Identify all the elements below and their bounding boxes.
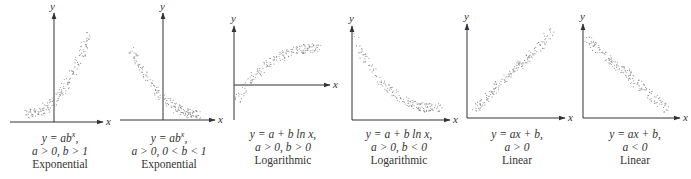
x-axis-label: x — [217, 113, 223, 125]
equation: y = ax + b, — [459, 128, 575, 141]
model-name: Logarithmic — [225, 154, 341, 167]
data-points — [353, 33, 442, 112]
x-axis-label: x — [452, 113, 458, 125]
caption-3: y = a + b ln x, a > 0, b > 0 Logarithmic — [225, 128, 341, 167]
y-axis-label: y — [579, 10, 585, 22]
x-axis-label: x — [567, 111, 573, 123]
y-axis-label: y — [348, 12, 354, 24]
panel-exponential-growth: x y — [10, 0, 111, 127]
caption-2: y = abx, a > 0, 0 < b < 1 Exponential — [111, 128, 227, 171]
equation: y = abx, — [111, 128, 227, 145]
caption-5: y = ax + b, a > 0 Linear — [459, 128, 575, 167]
data-points — [234, 43, 321, 102]
caption-1: y = abx, a > 0, b > 1 Exponential — [2, 128, 118, 171]
panel-linear-increasing: x y — [463, 10, 573, 123]
conditions: a > 0, b > 1 — [2, 145, 118, 158]
caption-4: y = a + b ln x, a > 0, b < 0 Logarithmic — [341, 128, 457, 167]
panel-linear-decreasing: x y — [579, 10, 688, 123]
data-points — [472, 28, 554, 111]
equation: y = a + b ln x, — [225, 128, 341, 141]
model-name: Linear — [577, 154, 691, 167]
caption-6: y = ax + b, a < 0 Linear — [577, 128, 691, 167]
data-points — [585, 36, 670, 112]
y-axis-label: y — [230, 12, 236, 24]
model-name: Linear — [459, 154, 575, 167]
data-points — [129, 47, 201, 119]
panel-logarithmic-decreasing: x y — [348, 12, 458, 125]
conditions: a > 0 — [459, 141, 575, 154]
equation: y = a + b ln x, — [341, 128, 457, 141]
x-axis-label: x — [682, 111, 688, 123]
model-name: Exponential — [2, 158, 118, 171]
model-name: Exponential — [111, 158, 227, 171]
data-points — [24, 32, 90, 118]
conditions: a > 0, 0 < b < 1 — [111, 145, 227, 158]
conditions: a > 0, b < 0 — [341, 141, 457, 154]
y-axis-label: y — [49, 0, 55, 12]
equation: y = abx, — [2, 128, 118, 145]
y-axis-label: y — [463, 10, 469, 22]
conditions: a < 0 — [577, 141, 691, 154]
y-axis-label: y — [159, 0, 165, 12]
panel-exponential-decay: x y — [120, 0, 223, 125]
x-axis-label: x — [105, 115, 111, 127]
conditions: a > 0, b > 0 — [225, 141, 341, 154]
panel-logarithmic-increasing: x y — [230, 12, 338, 120]
equation: y = ax + b, — [577, 128, 691, 141]
model-name: Logarithmic — [341, 154, 457, 167]
x-axis-label: x — [332, 78, 338, 90]
